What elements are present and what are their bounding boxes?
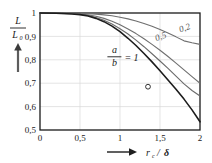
- y-tick-label: 0,8: [25, 55, 37, 65]
- ab-ratio-annotation: a b = 1: [107, 44, 138, 68]
- x-axis-right-arrow-icon: [107, 148, 137, 155]
- marker-circle-icon: [146, 84, 151, 89]
- ab-ratio-numerator: a: [112, 44, 117, 55]
- x-tick-label: 2: [198, 133, 203, 143]
- chart-canvas: 00,511,52 0,50,60,70,80,91 0,20,5 L L 0 …: [0, 0, 212, 163]
- y-axis-up-arrow-icon: [14, 43, 22, 72]
- grid-lines: [40, 13, 200, 130]
- annotation-marker-circle: [146, 84, 151, 89]
- chart-page: 00,511,52 0,50,60,70,80,91 0,20,5 L L 0 …: [0, 0, 212, 163]
- y-tick-label: 1: [32, 8, 37, 18]
- y-axis-label-numerator: L: [14, 15, 21, 26]
- y-axis-label-denominator-subscript: 0: [20, 35, 23, 41]
- x-tick-label: 1: [118, 133, 123, 143]
- ab-ratio-equals: =: [124, 52, 131, 63]
- y-axis-label-denominator: L: [11, 29, 18, 40]
- x-tick-label: 0,5: [74, 133, 86, 143]
- ab-ratio-denominator: b: [112, 57, 117, 68]
- y-tick-label: 0,5: [25, 125, 37, 135]
- x-axis-label-denominator: δ: [164, 147, 169, 158]
- y-axis-label: L L 0: [10, 15, 26, 72]
- x-axis-label-subscript: c: [152, 153, 155, 159]
- y-tick-labels: 0,50,60,70,80,91: [25, 8, 37, 135]
- ab-ratio-value: 1: [133, 52, 138, 63]
- y-tick-label: 0,9: [25, 32, 37, 42]
- x-tick-label: 0: [38, 133, 43, 143]
- x-axis-label-slash: /: [156, 147, 161, 158]
- x-axis-label: r c / δ: [107, 147, 169, 159]
- y-tick-label: 0,7: [25, 78, 37, 88]
- x-axis-label-variable: r: [146, 147, 150, 158]
- x-tick-label: 1,5: [154, 133, 166, 143]
- curve-label-0,2: 0,2: [178, 21, 192, 34]
- curve-series-labels: 0,20,5: [154, 21, 192, 43]
- y-tick-label: 0,6: [25, 102, 37, 112]
- x-tick-labels: 00,511,52: [38, 133, 203, 143]
